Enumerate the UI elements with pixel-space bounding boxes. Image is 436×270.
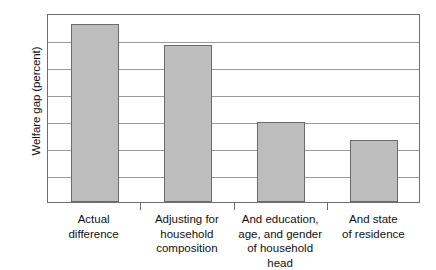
x-axis-category-label-line: And education, — [234, 212, 327, 227]
x-axis-category-label-line: of household head — [234, 241, 327, 270]
x-axis-category-label-line: And state — [327, 212, 420, 227]
x-axis-category-label: Adjusting forhouseholdcomposition — [140, 212, 233, 256]
x-axis-category-label: And stateof residence — [327, 212, 420, 241]
bar — [257, 122, 305, 202]
x-axis-category-label-line: household — [140, 227, 233, 242]
plot-area: 01234567 — [47, 14, 420, 203]
x-axis-tick — [234, 203, 235, 210]
x-axis-category-label-line: Actual — [47, 212, 140, 227]
bar — [164, 45, 212, 202]
bar — [71, 24, 119, 202]
bar — [350, 140, 398, 202]
x-axis-category-label-line: Adjusting for — [140, 212, 233, 227]
y-axis-title: Welfare gap (percent) — [30, 6, 42, 196]
x-axis-category-label: And education,age, and genderof househol… — [234, 212, 327, 270]
x-axis-category-label-line: of residence — [327, 227, 420, 242]
x-axis-category-label-line: difference — [47, 227, 140, 242]
x-axis-category-label-line: composition — [140, 241, 233, 256]
x-axis-tick — [327, 203, 328, 210]
x-axis-category-label: Actualdifference — [47, 212, 140, 241]
x-axis-tick — [140, 203, 141, 210]
x-axis-category-label-line: age, and gender — [234, 227, 327, 242]
